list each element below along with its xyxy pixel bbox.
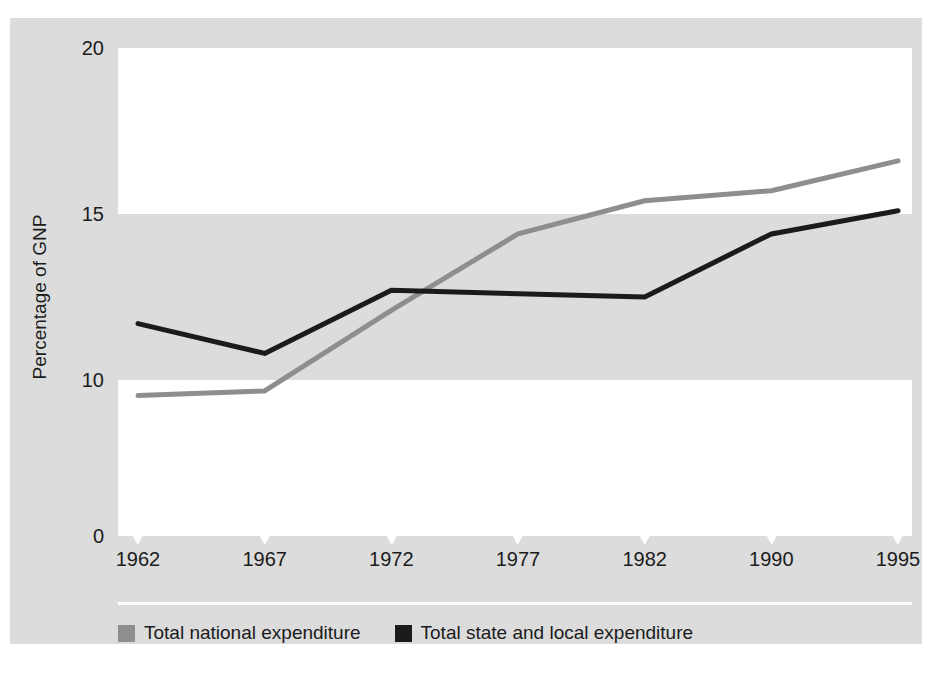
x-axis-tick-marker-icon [513, 536, 523, 545]
plot-area [118, 48, 912, 536]
y-axis: 2015100 [10, 18, 118, 538]
x-axis-tick-label: 1962 [116, 548, 161, 571]
legend-item: Total national expenditure [118, 622, 361, 644]
chart-lines [118, 48, 912, 536]
x-axis-tick: 1967 [242, 536, 287, 571]
legend: Total national expenditureTotal state an… [118, 622, 693, 644]
x-axis-tick-marker-icon [640, 536, 650, 545]
x-axis-tick: 1977 [496, 536, 541, 571]
x-axis-tick-marker-icon [893, 536, 903, 545]
legend-item: Total state and local expenditure [395, 622, 694, 644]
x-axis: 1962196719721977198219901995 [118, 536, 912, 582]
x-axis-tick: 1962 [116, 536, 161, 571]
legend-label: Total state and local expenditure [421, 622, 694, 644]
x-axis-tick: 1982 [622, 536, 667, 571]
x-axis-tick: 1995 [876, 536, 921, 571]
x-axis-tick-marker-icon [386, 536, 396, 545]
x-axis-tick-label: 1995 [876, 548, 921, 571]
figure-panel: 2015100 Percentage of GNP 19621967197219… [10, 18, 922, 644]
x-axis-tick-label: 1967 [242, 548, 287, 571]
y-axis-tick-label: 20 [82, 37, 104, 60]
x-axis-tick-label: 1990 [749, 548, 794, 571]
x-axis-tick-marker-icon [133, 536, 143, 545]
legend-color-swatch [118, 625, 135, 642]
legend-color-swatch [395, 625, 412, 642]
legend-label: Total national expenditure [144, 622, 361, 644]
y-axis-tick-label: 0 [93, 525, 104, 548]
bottom-cropped-caption [0, 666, 934, 680]
x-axis-tick-label: 1977 [496, 548, 541, 571]
top-cropped-caption [0, 0, 934, 14]
y-axis-title: Percentage of GNP [29, 132, 51, 462]
x-axis-tick-label: 1982 [622, 548, 667, 571]
x-axis-tick-marker-icon [260, 536, 270, 545]
x-axis-tick: 1990 [749, 536, 794, 571]
x-axis-tick-label: 1972 [369, 548, 414, 571]
series-line [138, 161, 898, 396]
x-axis-tick-marker-icon [766, 536, 776, 545]
legend-divider [118, 602, 912, 605]
y-axis-tick-label: 10 [82, 369, 104, 392]
x-axis-tick: 1972 [369, 536, 414, 571]
y-axis-tick-label: 15 [82, 203, 104, 226]
